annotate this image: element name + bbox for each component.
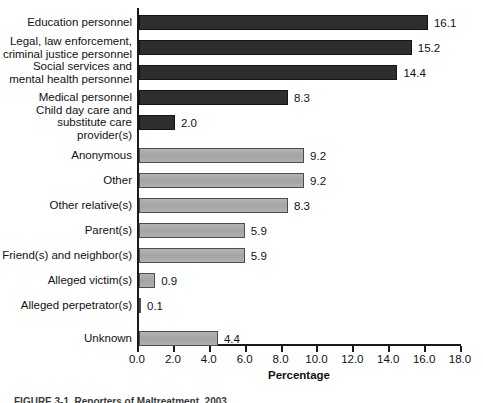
- x-axis-tick-label: 6.0: [237, 353, 253, 365]
- bar-value-label: 9.2: [310, 150, 326, 162]
- bar-value-label: 9.2: [310, 175, 326, 187]
- bar: [139, 173, 304, 188]
- bar-category-label: Child day care and substitute care provi…: [0, 104, 132, 142]
- bar-category-label: Social services and mental health person…: [0, 60, 132, 85]
- bar: [139, 115, 175, 130]
- bar-category-label: Friend(s) and neighbor(s): [0, 249, 132, 262]
- bar-category-label: Parent(s): [0, 224, 132, 237]
- bar: [139, 90, 288, 105]
- bar: [139, 223, 245, 238]
- bar-row: Alleged victim(s)0.9: [0, 268, 483, 293]
- x-axis-tick-label: 10.0: [305, 353, 327, 365]
- bar-category-label: Unknown: [0, 332, 132, 345]
- x-axis-tick-label: 4.0: [201, 353, 217, 365]
- bar-row: Alleged perpetrator(s)0.1: [0, 293, 483, 318]
- bar-row: Social services and mental health person…: [0, 60, 483, 85]
- bar-wrapper: 15.2: [139, 35, 440, 60]
- bar-value-label: 2.0: [181, 117, 197, 129]
- x-axis-tick: [424, 346, 426, 352]
- bar-wrapper: 5.9: [139, 218, 267, 243]
- bar-wrapper: 9.2: [139, 168, 326, 193]
- bar-value-label: 15.2: [418, 42, 440, 54]
- bar: [139, 298, 141, 313]
- bar-category-label: Legal, law enforcement, criminal justice…: [0, 35, 132, 60]
- x-axis-tick: [352, 346, 354, 352]
- bar-wrapper: 2.0: [139, 110, 197, 135]
- x-axis-tick: [137, 346, 139, 352]
- bar-row: Other9.2: [0, 168, 483, 193]
- bar-value-label: 5.9: [251, 250, 267, 262]
- bar-value-label: 8.3: [294, 200, 310, 212]
- bar-category-label: Anonymous: [0, 149, 132, 162]
- bar-row: Child day care and substitute care provi…: [0, 110, 483, 135]
- x-axis-tick: [281, 346, 283, 352]
- figure-caption: FIGURE 3-1. Reporters of Maltreatment, 2…: [14, 396, 227, 403]
- bar-wrapper: 5.9: [139, 243, 267, 268]
- bar-row: Unknown4.4: [0, 326, 483, 351]
- bar-row: Other relative(s)8.3: [0, 193, 483, 218]
- bar-category-label: Other relative(s): [0, 199, 132, 212]
- bar-row: Legal, law enforcement, criminal justice…: [0, 35, 483, 60]
- x-axis-tick-label: 12.0: [341, 353, 363, 365]
- bar-row: Parent(s)5.9: [0, 218, 483, 243]
- bar-wrapper: 14.4: [139, 60, 426, 85]
- bar-wrapper: 8.3: [139, 85, 310, 110]
- bar-wrapper: 0.9: [139, 268, 177, 293]
- bar: [139, 65, 397, 80]
- bar-wrapper: 4.4: [139, 326, 240, 351]
- bar-category-label: Alleged perpetrator(s): [0, 299, 132, 312]
- bar-category-label: Alleged victim(s): [0, 274, 132, 287]
- bar-category-label: Education personnel: [0, 16, 132, 29]
- bar: [139, 148, 304, 163]
- bar-value-label: 5.9: [251, 225, 267, 237]
- bar: [139, 248, 245, 263]
- x-axis-tick: [173, 346, 175, 352]
- bar-category-label: Other: [0, 174, 132, 187]
- x-axis-tick-label: 2.0: [165, 353, 181, 365]
- x-axis-tick: [388, 346, 390, 352]
- x-axis-tick: [316, 346, 318, 352]
- bar-row: Education personnel16.1: [0, 10, 483, 35]
- bar-value-label: 16.1: [434, 17, 456, 29]
- bar-value-label: 0.9: [161, 275, 177, 287]
- bar-value-label: 8.3: [294, 92, 310, 104]
- x-axis-tick-label: 16.0: [413, 353, 435, 365]
- bar: [139, 15, 428, 30]
- bar: [139, 273, 155, 288]
- bar-row: Anonymous9.2: [0, 143, 483, 168]
- bar: [139, 40, 412, 55]
- x-axis-tick-label: 18.0: [449, 353, 471, 365]
- bar-wrapper: 8.3: [139, 193, 310, 218]
- bar: [139, 331, 218, 346]
- x-axis-title: Percentage: [137, 369, 461, 381]
- x-axis-tick-label: 14.0: [377, 353, 399, 365]
- bar-value-label: 0.1: [147, 300, 163, 312]
- bar-category-label: Medical personnel: [0, 91, 132, 104]
- bar-wrapper: 16.1: [139, 10, 456, 35]
- figure-container: Education personnel16.1Legal, law enforc…: [0, 0, 483, 403]
- bar-value-label: 14.4: [403, 67, 425, 79]
- bar-row: Friend(s) and neighbor(s)5.9: [0, 243, 483, 268]
- bar-value-label: 4.4: [224, 333, 240, 345]
- x-axis-tick: [209, 346, 211, 352]
- bar-wrapper: 9.2: [139, 143, 326, 168]
- x-axis-tick-label: 0.0: [129, 353, 145, 365]
- x-axis-tick: [460, 346, 462, 352]
- x-axis-tick-label: 8.0: [273, 353, 289, 365]
- bar: [139, 198, 288, 213]
- x-axis-tick: [245, 346, 247, 352]
- bar-wrapper: 0.1: [139, 293, 163, 318]
